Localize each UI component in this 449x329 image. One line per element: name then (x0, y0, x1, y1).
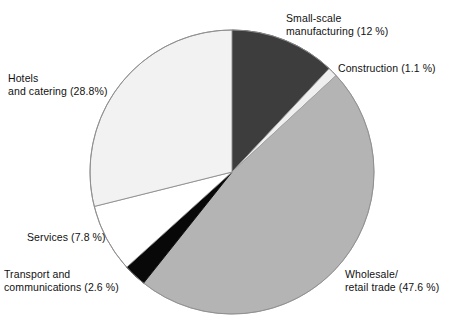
slice-label-transport-and-communications: Transport and communications (2.6 %) (4, 268, 119, 294)
slice-label-line-1: Transport and (4, 268, 119, 281)
slice-label-line-1: Wholesale/ (345, 268, 439, 281)
pie-chart-figure: Small-scale manufacturing (12 %) Constru… (0, 0, 449, 329)
slice-label-line-1: Hotels (8, 72, 107, 85)
slice-label-construction: Construction (1.1 %) (338, 62, 436, 75)
slice-label-line-2: communications (2.6 %) (4, 281, 119, 294)
slice-label-line-1: Construction (1.1 %) (338, 62, 436, 75)
slice-label-small-scale-manufacturing: Small-scale manufacturing (12 %) (286, 12, 388, 38)
slice-label-services: Services (7.8 %) (27, 231, 106, 244)
slice-label-hotels-and-catering: Hotels and catering (28.8%) (8, 72, 107, 98)
slice-label-wholesale-retail-trade: Wholesale/ retail trade (47.6 %) (345, 268, 439, 294)
slice-label-line-1: Small-scale (286, 12, 388, 25)
slice-label-line-2: manufacturing (12 %) (286, 25, 388, 38)
slice-label-line-1: Services (7.8 %) (27, 231, 106, 244)
slice-label-line-2: and catering (28.8%) (8, 85, 107, 98)
slice-label-line-2: retail trade (47.6 %) (345, 281, 439, 294)
